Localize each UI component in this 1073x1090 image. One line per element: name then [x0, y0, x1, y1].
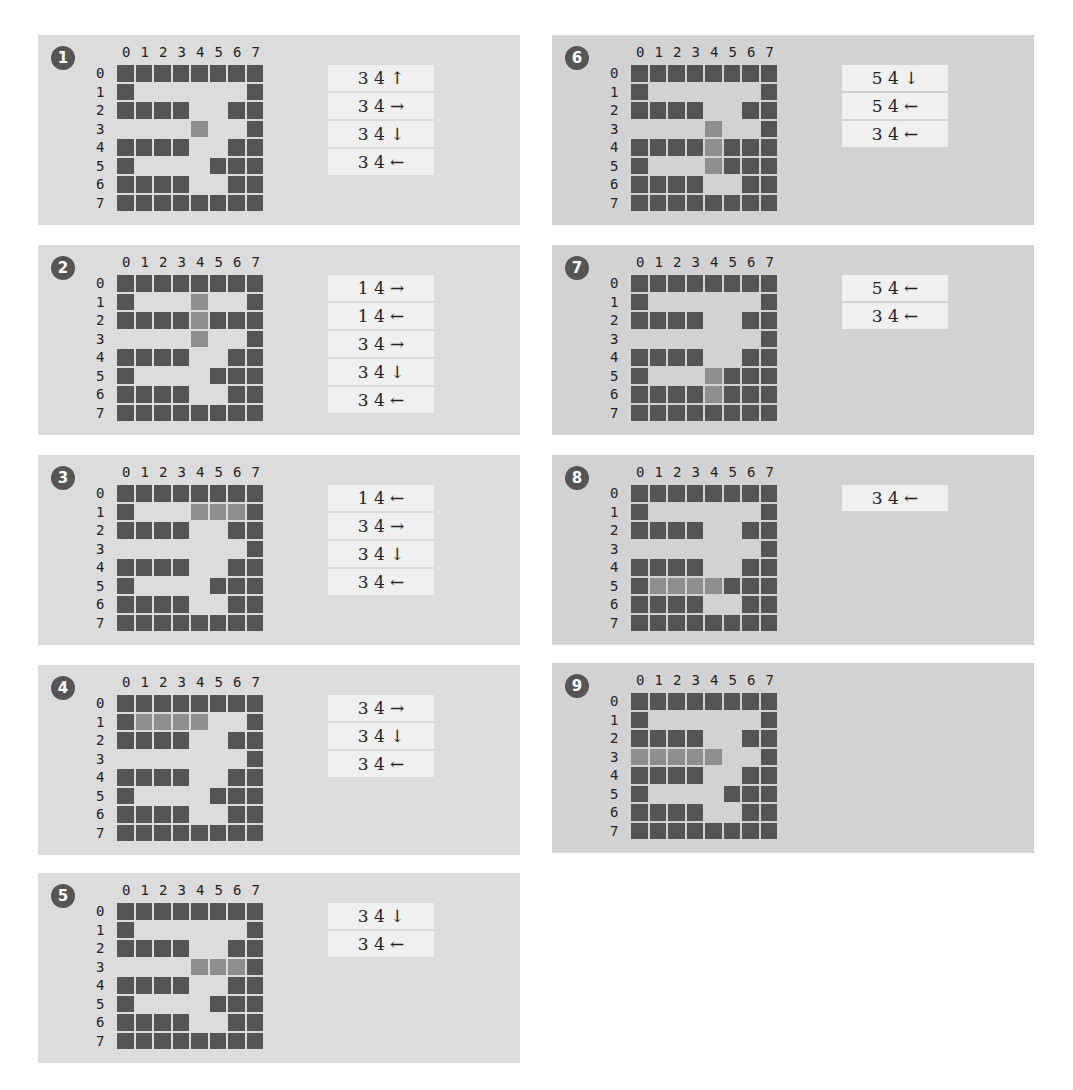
backtrack-stack: 1 4 →1 4 ←3 4 →3 4 ↓3 4 ← — [328, 275, 434, 413]
row-label: 3 — [96, 540, 104, 559]
maze-cell-empty — [724, 176, 741, 193]
stack-entry: 3 4 ← — [328, 569, 434, 595]
maze-cell-empty — [136, 294, 153, 311]
maze-cell-wall — [650, 559, 667, 576]
stack-entry: 3 4 ↓ — [328, 359, 434, 385]
column-label: 0 — [631, 254, 650, 270]
maze-cell-visited — [210, 504, 227, 521]
backtrack-stack: 3 4 →3 4 ↓3 4 ← — [328, 695, 434, 777]
maze-cell-empty — [228, 294, 245, 311]
column-label: 5 — [724, 254, 743, 270]
maze-cell-empty — [117, 959, 134, 976]
column-label: 5 — [210, 882, 229, 898]
maze-cell-wall — [247, 368, 264, 385]
maze-cell-wall — [742, 405, 759, 422]
maze-cell-wall — [631, 139, 648, 156]
maze-cell-wall — [687, 767, 704, 784]
maze-grid — [117, 485, 263, 631]
row-label: 2 — [96, 101, 104, 120]
column-label: 0 — [117, 882, 136, 898]
maze-cell-wall — [117, 1014, 134, 1031]
maze-cell-wall — [650, 693, 667, 710]
maze-cell-wall — [761, 275, 778, 292]
maze-cell-empty — [724, 121, 741, 138]
maze-cell-visited — [687, 749, 704, 766]
maze-cell-visited — [650, 578, 667, 595]
maze-cell-wall — [117, 65, 134, 82]
maze-cell-wall — [117, 312, 134, 329]
maze-cell-wall — [173, 806, 190, 823]
maze-cell-empty — [210, 922, 227, 939]
maze-cell-wall — [687, 730, 704, 747]
maze-cell-empty — [705, 331, 722, 348]
maze-cell-visited — [631, 749, 648, 766]
maze-cell-wall — [210, 825, 227, 842]
maze-cell-empty — [650, 541, 667, 558]
maze-cell-wall — [631, 504, 648, 521]
column-labels: 01234567 — [117, 254, 265, 270]
maze-cell-wall — [228, 522, 245, 539]
maze-cell-empty — [191, 806, 208, 823]
step-panel-9: 90123456701234567 — [552, 663, 1034, 853]
column-label: 6 — [228, 882, 247, 898]
maze-cell-wall — [154, 102, 171, 119]
column-label: 4 — [705, 464, 724, 480]
maze-cell-wall — [742, 730, 759, 747]
row-label: 1 — [96, 503, 104, 522]
maze-cell-wall — [136, 769, 153, 786]
maze-cell-empty — [136, 84, 153, 101]
maze-cell-empty — [210, 732, 227, 749]
maze-cell-empty — [668, 158, 685, 175]
maze-cell-wall — [247, 695, 264, 712]
maze-cell-wall — [742, 275, 759, 292]
maze-cell-wall — [136, 596, 153, 613]
maze-cell-empty — [136, 368, 153, 385]
step-number-badge: 4 — [51, 676, 75, 700]
row-label: 2 — [96, 521, 104, 540]
maze-cell-empty — [228, 922, 245, 939]
maze-cell-visited — [705, 386, 722, 403]
column-label: 5 — [724, 44, 743, 60]
maze-cell-visited — [191, 331, 208, 348]
row-label: 7 — [96, 824, 104, 843]
maze-cell-wall — [247, 121, 264, 138]
maze-cell-empty — [154, 751, 171, 768]
row-label: 3 — [610, 748, 618, 767]
column-label: 6 — [742, 254, 761, 270]
maze-cell-wall — [761, 522, 778, 539]
maze-cell-empty — [668, 331, 685, 348]
maze-cell-empty — [210, 139, 227, 156]
maze-cell-empty — [724, 559, 741, 576]
maze-cell-wall — [761, 596, 778, 613]
row-label: 0 — [610, 64, 618, 83]
maze-cell-wall — [247, 1033, 264, 1050]
maze-cell-empty — [173, 996, 190, 1013]
maze-cell-empty — [173, 578, 190, 595]
maze-cell-empty — [742, 121, 759, 138]
column-label: 5 — [210, 44, 229, 60]
column-label: 7 — [761, 464, 780, 480]
maze-cell-empty — [117, 121, 134, 138]
maze-cell-empty — [650, 121, 667, 138]
maze-cell-empty — [705, 102, 722, 119]
maze-cell-wall — [668, 615, 685, 632]
maze-cell-wall — [117, 368, 134, 385]
maze-cell-empty — [210, 714, 227, 731]
maze-cell-wall — [154, 195, 171, 212]
row-labels: 01234567 — [610, 64, 618, 212]
maze-cell-wall — [687, 804, 704, 821]
maze-cell-wall — [687, 195, 704, 212]
stack-entry: 3 4 ← — [842, 485, 948, 511]
step-number-badge: 9 — [565, 674, 589, 698]
maze-cell-wall — [228, 596, 245, 613]
column-label: 7 — [247, 674, 266, 690]
maze-cell-wall — [173, 903, 190, 920]
maze-cell-wall — [210, 615, 227, 632]
maze-cell-wall — [761, 730, 778, 747]
column-label: 3 — [173, 674, 192, 690]
column-label: 6 — [228, 44, 247, 60]
maze-cell-wall — [631, 767, 648, 784]
maze-cell-wall — [724, 823, 741, 840]
maze-cell-wall — [668, 195, 685, 212]
maze-cell-wall — [173, 977, 190, 994]
